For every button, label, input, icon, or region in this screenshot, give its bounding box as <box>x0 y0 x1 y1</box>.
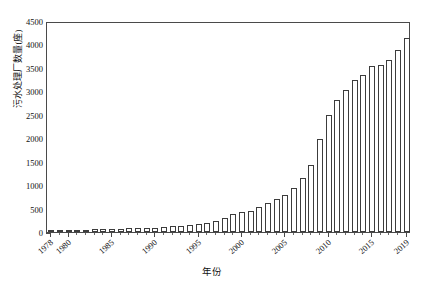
y-tick-label: 2000 <box>3 135 43 144</box>
bar <box>248 211 254 232</box>
x-tick-mark <box>68 233 69 237</box>
x-tick-mark-minor <box>146 233 147 235</box>
bar <box>57 230 63 232</box>
x-tick-label: 1980 <box>54 238 73 256</box>
bar <box>92 229 98 232</box>
x-tick-mark <box>284 233 285 237</box>
bar <box>378 65 384 232</box>
x-tick-label: 2010 <box>314 238 333 256</box>
bar <box>187 225 193 232</box>
x-tick-mark <box>406 233 407 237</box>
x-tick-mark-minor <box>102 233 103 235</box>
x-tick-mark-minor <box>224 233 225 235</box>
x-tick-mark-minor <box>85 233 86 235</box>
bar <box>126 228 132 232</box>
y-tick-label: 1000 <box>3 182 43 191</box>
x-tick-mark <box>111 233 112 237</box>
bar <box>386 60 392 232</box>
x-tick-mark-minor <box>276 233 277 235</box>
bar <box>256 207 262 232</box>
bar <box>100 229 106 232</box>
x-tick-label: 2005 <box>271 238 290 256</box>
x-tick-mark-minor <box>397 233 398 235</box>
bar <box>404 38 410 232</box>
bar <box>282 195 288 232</box>
y-tick-label: 4500 <box>3 18 43 27</box>
bar <box>308 165 314 232</box>
bar <box>369 66 375 232</box>
bar <box>144 228 150 232</box>
bar <box>230 214 236 232</box>
x-tick-label: 1990 <box>141 238 160 256</box>
x-tick-label: 2015 <box>357 238 376 256</box>
bar <box>317 139 323 232</box>
bar <box>265 203 271 232</box>
x-tick-label: 1978 <box>37 238 56 256</box>
x-tick-mark-minor <box>137 233 138 235</box>
x-tick-mark <box>371 233 372 237</box>
y-tick-label: 4000 <box>3 41 43 50</box>
x-tick-mark-minor <box>362 233 363 235</box>
bar <box>178 226 184 232</box>
x-tick-mark-minor <box>267 233 268 235</box>
bar <box>196 224 202 232</box>
x-tick-mark-minor <box>310 233 311 235</box>
x-tick-mark-minor <box>180 233 181 235</box>
x-tick-mark-minor <box>388 233 389 235</box>
x-tick-mark-minor <box>76 233 77 235</box>
y-tick-label: 2500 <box>3 112 43 121</box>
x-tick-mark <box>154 233 155 237</box>
bar <box>161 227 167 232</box>
chart-figure: 污水处理厂数量(座) 45004000350030002500200015001… <box>0 0 424 285</box>
x-tick-mark-minor <box>163 233 164 235</box>
x-tick-mark-minor <box>345 233 346 235</box>
x-axis-title: 年份 <box>0 264 424 278</box>
bar <box>83 230 89 232</box>
x-tick-mark <box>198 233 199 237</box>
x-tick-mark-minor <box>172 233 173 235</box>
bar <box>274 199 280 232</box>
bar <box>291 188 297 232</box>
x-tick-mark-minor <box>128 233 129 235</box>
x-tick-mark-minor <box>319 233 320 235</box>
x-tick-mark-minor <box>206 233 207 235</box>
bar <box>334 100 340 232</box>
bar <box>395 50 401 232</box>
y-tick-label: 3000 <box>3 88 43 97</box>
x-tick-mark <box>328 233 329 237</box>
x-tick-mark-minor <box>250 233 251 235</box>
x-tick-mark-minor <box>232 233 233 235</box>
x-tick-mark-minor <box>336 233 337 235</box>
x-tick-mark-minor <box>380 233 381 235</box>
bar <box>170 226 176 232</box>
x-tick-mark-minor <box>59 233 60 235</box>
bar <box>326 115 332 232</box>
bar <box>152 228 158 233</box>
bar <box>66 230 72 232</box>
bar <box>109 229 115 232</box>
bar-series <box>47 23 409 232</box>
bar <box>300 178 306 232</box>
y-tick-label: 1500 <box>3 159 43 168</box>
bar <box>352 80 358 232</box>
y-tick-label: 0 <box>3 229 43 238</box>
bar <box>118 229 124 232</box>
bar <box>48 230 54 232</box>
x-tick-label: 2000 <box>227 238 246 256</box>
y-tick-label: 3500 <box>3 65 43 74</box>
bar <box>239 212 245 232</box>
x-tick-mark-minor <box>215 233 216 235</box>
bar <box>204 223 210 232</box>
x-tick-mark-minor <box>302 233 303 235</box>
bar <box>343 90 349 232</box>
bar <box>74 230 80 232</box>
bar <box>222 218 228 232</box>
x-tick-mark-minor <box>94 233 95 235</box>
bar <box>213 221 219 232</box>
x-tick-mark <box>50 233 51 237</box>
x-tick-label: 1995 <box>184 238 203 256</box>
x-tick-mark-minor <box>120 233 121 235</box>
x-tick-mark-minor <box>354 233 355 235</box>
x-tick-mark-minor <box>189 233 190 235</box>
bar <box>360 75 366 232</box>
